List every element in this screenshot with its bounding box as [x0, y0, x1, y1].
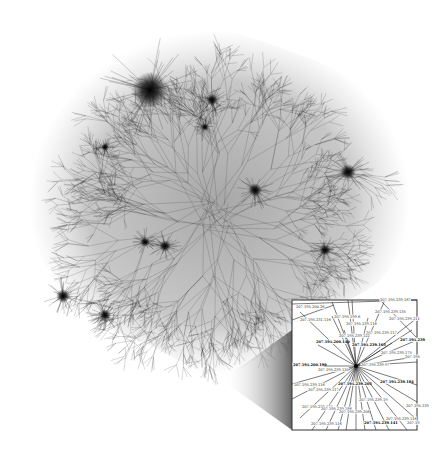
network-edge	[110, 333, 119, 337]
ip-address-label: 207.195.239.141	[364, 421, 398, 425]
ip-address-label: 207.195.239.116	[346, 322, 378, 326]
network-edge	[183, 367, 191, 377]
ip-address-label: 207.195.231.116	[300, 318, 332, 322]
network-edge	[154, 357, 155, 370]
ip-address-label: 207.195.239.116	[311, 422, 343, 426]
hub-node	[101, 143, 109, 151]
ip-address-label: 207.195.239.211	[389, 317, 420, 321]
network-edge	[119, 347, 126, 353]
ip-address-label: 207.195	[405, 355, 421, 359]
hub-node	[132, 72, 168, 108]
network-edge	[152, 357, 154, 370]
hub-node	[201, 123, 209, 131]
ip-address-label: 207.195.239.97	[361, 363, 390, 367]
ip-address-label: 207.195.239.117	[366, 331, 398, 335]
hub-node	[56, 289, 70, 303]
ip-address-label: 207.195.239.208	[339, 410, 371, 414]
network-edge	[182, 367, 184, 380]
hub-node	[248, 183, 262, 197]
network-edge	[133, 354, 140, 360]
network-edge	[177, 365, 180, 378]
ip-address-label: 207.195.239.120	[318, 368, 350, 372]
ip-address-label: 207.195.239.122	[339, 334, 370, 338]
ip-address-label: 207.195.239.203	[338, 382, 372, 386]
ip-address-label: 207.195.239.167	[380, 298, 412, 302]
network-edge	[138, 358, 141, 369]
network-edge	[142, 356, 152, 364]
network-edge	[164, 365, 177, 370]
network-edge	[141, 358, 145, 369]
ip-address-label: 207.195.239.116	[294, 383, 326, 387]
network-edge	[183, 367, 187, 377]
network-edge	[168, 365, 177, 373]
ip-address-label: 207.195.200.199	[293, 363, 327, 367]
inset-hub-node	[354, 364, 358, 368]
inset-zoom-box: 207.195.200.26207.195.231.116207.195.199…	[292, 298, 430, 430]
ip-address-label: 207.195.239	[406, 404, 430, 408]
hub-node	[140, 237, 150, 247]
hub-node	[319, 244, 331, 256]
ip-address-label: 207.195.199.6	[334, 315, 361, 319]
ip-address-label: 207.19	[407, 421, 420, 425]
ip-address-label: 207.195.200.140	[316, 340, 350, 344]
hub-node	[340, 164, 356, 180]
ip-address-label: 207.195.239.135	[375, 310, 407, 314]
network-edge	[147, 356, 152, 366]
hub-node	[206, 94, 218, 106]
ip-address-label: 207.195.200.26	[296, 305, 325, 309]
network-edge	[106, 343, 116, 347]
ip-address-label: 207.195.239.117	[308, 388, 340, 392]
network-edge	[124, 358, 125, 371]
network-edge	[101, 331, 108, 340]
hub-node	[159, 240, 171, 252]
ip-address-label: 207.195.239.163	[352, 343, 386, 347]
ip-address-label: 207.195.239.19	[359, 398, 388, 402]
internet-map-figure: 207.195.200.26207.195.231.116207.195.199…	[0, 0, 437, 454]
ip-address-label: 207.195.239	[400, 338, 426, 342]
hub-node	[99, 309, 111, 321]
ip-address-label: 207.195.239.184	[380, 380, 414, 384]
